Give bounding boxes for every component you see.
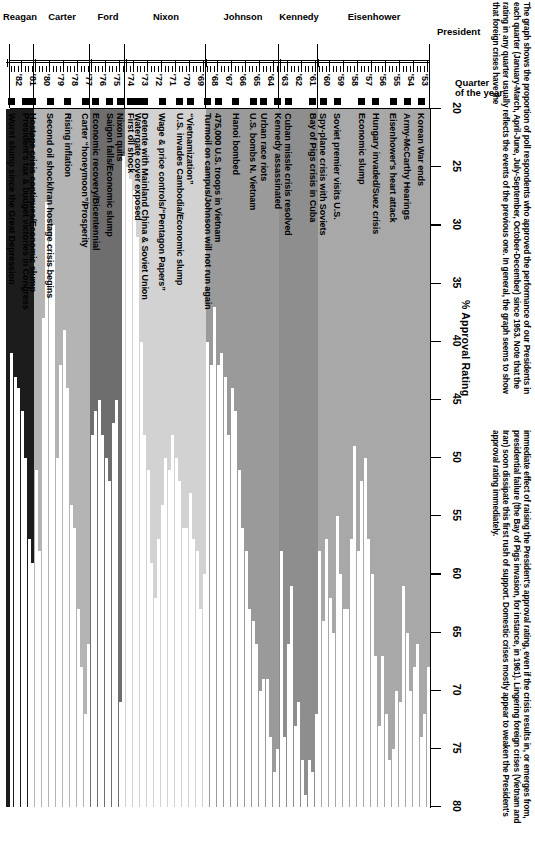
bar xyxy=(203,574,206,807)
bar xyxy=(276,749,279,807)
bar xyxy=(133,190,136,807)
quarter-tick xyxy=(182,66,183,72)
event-label: Korean War ends xyxy=(416,113,426,186)
event-marker xyxy=(47,98,54,105)
president-name: Reagan xyxy=(4,11,38,22)
quarter-tick xyxy=(172,66,173,72)
value-tick xyxy=(431,399,441,400)
quarter-tick xyxy=(298,66,299,72)
event-label: Urban race riots xyxy=(259,113,269,181)
bar xyxy=(308,760,311,807)
president-bracket xyxy=(126,62,207,63)
bar xyxy=(52,225,55,807)
bar xyxy=(77,609,80,807)
bar xyxy=(304,795,307,807)
year-label: '57 xyxy=(364,74,374,86)
bar xyxy=(227,435,230,807)
quarter-tick xyxy=(70,66,71,72)
quarter-tick xyxy=(126,66,127,72)
quarter-tick xyxy=(382,66,383,72)
bar xyxy=(136,237,139,807)
year-label: '56 xyxy=(378,74,388,86)
bar xyxy=(38,551,41,807)
bar xyxy=(168,470,171,807)
quarter-tick xyxy=(354,66,355,72)
bar xyxy=(325,539,328,807)
president-bracket xyxy=(206,62,280,63)
value-tick-label: 55 xyxy=(451,509,463,521)
value-tick xyxy=(431,166,441,167)
value-tick-label: 40 xyxy=(451,335,463,347)
bar xyxy=(157,539,160,807)
year-label: '68 xyxy=(210,74,220,86)
year-label: '62 xyxy=(294,74,304,86)
year-label: '66 xyxy=(238,74,248,86)
bar xyxy=(105,458,108,807)
quarter-tick xyxy=(312,66,313,72)
figure-page: The graph shows the proportion of poll r… xyxy=(0,0,535,842)
quarter-tick xyxy=(291,66,292,72)
event-label: Economic recovery/Bicentennial xyxy=(91,113,101,251)
bar xyxy=(378,726,381,807)
event-marker xyxy=(187,98,194,105)
quarter-tick xyxy=(109,66,110,72)
value-tick xyxy=(431,806,441,807)
value-tick-label: 60 xyxy=(451,567,463,579)
event-marker xyxy=(250,98,257,105)
bar xyxy=(266,679,269,807)
value-tick-label: 75 xyxy=(451,742,463,754)
year-label: '79 xyxy=(56,74,66,86)
quarter-tick xyxy=(168,66,169,72)
bar xyxy=(360,481,363,807)
quarter-tick xyxy=(322,66,323,72)
year-label: '70 xyxy=(182,74,192,86)
event-label: Bay of Pigs crisis in Cuba xyxy=(308,113,318,222)
quarter-tick xyxy=(266,66,267,72)
quarter-tick xyxy=(144,66,145,72)
event-marker xyxy=(134,98,141,105)
event-label: Kennedy assassinated xyxy=(273,113,283,209)
event-label: Eisenhower's heart attack xyxy=(388,113,398,222)
bar xyxy=(66,388,69,807)
bar xyxy=(122,156,125,807)
bar xyxy=(367,539,370,807)
year-label: '65 xyxy=(252,74,262,86)
bar xyxy=(294,726,297,807)
year-label: '74 xyxy=(126,74,136,86)
president-bracket xyxy=(91,62,126,63)
event-marker xyxy=(29,98,36,105)
bar xyxy=(17,388,20,807)
event-marker xyxy=(92,98,99,105)
quarter-tick xyxy=(242,66,243,72)
bar xyxy=(143,435,146,807)
year-label: '76 xyxy=(98,74,108,86)
quarter-tick xyxy=(249,66,250,72)
event-marker xyxy=(82,98,89,105)
president-bracket xyxy=(7,62,35,63)
bar xyxy=(283,737,286,807)
quarter-tick xyxy=(214,66,215,72)
caption-block: The graph shows the proportion of poll r… xyxy=(473,0,535,842)
quarter-tick xyxy=(319,66,320,72)
quarter-tick xyxy=(392,66,393,72)
bar xyxy=(364,458,367,807)
quarter-tick xyxy=(186,66,187,72)
event-label: Worst slump since the Great Depression xyxy=(7,113,17,284)
event-marker xyxy=(320,98,327,105)
event-label: Army-McCarthy Hearings xyxy=(402,113,412,220)
quarter-tick xyxy=(368,66,369,72)
president-bracket-cap xyxy=(91,59,92,67)
event-marker xyxy=(106,98,113,105)
event-marker xyxy=(215,98,222,105)
event-marker xyxy=(64,98,71,105)
bar xyxy=(161,505,164,807)
bar xyxy=(402,586,405,807)
year-label: '80 xyxy=(42,74,52,86)
quarter-tick xyxy=(151,66,152,72)
bar xyxy=(175,458,178,807)
bar xyxy=(413,667,416,807)
quarter-tick xyxy=(252,66,253,72)
caption-left-column: The graph shows the proportion of poll r… xyxy=(490,2,531,402)
quarter-tick xyxy=(165,66,166,72)
quarter-tick xyxy=(14,66,15,72)
